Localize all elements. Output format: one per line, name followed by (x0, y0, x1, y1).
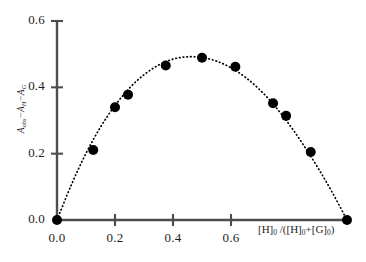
xlabel-p2: /([H] (277, 223, 302, 235)
ylabel-sub2: H (20, 102, 27, 107)
ylabel-sub1: obs (20, 119, 27, 128)
data-point (281, 111, 291, 121)
data-point (342, 215, 352, 225)
y-tick-label: 0.2 (5, 145, 45, 161)
data-point (110, 102, 120, 112)
y-tick-label: 0.0 (5, 211, 45, 227)
job-plot-figure: Aobs−AH−AG [H]0 /([H]0+[G]0) 0.00.20.40.… (0, 0, 366, 262)
xlabel-p1: [H] (258, 223, 273, 235)
data-point (197, 53, 207, 63)
xlabel-p3: +[G] (306, 223, 327, 235)
ylabel-a2: A (16, 106, 26, 112)
x-axis-label: [H]0 /([H]0+[G]0) (258, 223, 334, 235)
ylabel-dash2: − (16, 95, 26, 101)
x-tick-label: 0.6 (211, 230, 251, 246)
x-tick-label: 0.4 (153, 230, 193, 246)
data-point (123, 90, 133, 100)
data-point (230, 62, 240, 72)
data-point (88, 145, 98, 155)
y-tick-label: 0.6 (5, 12, 45, 28)
fitted-curve (57, 57, 347, 220)
ylabel-a1: A (16, 128, 26, 134)
xlabel-p4: ) (331, 223, 335, 235)
fit-curve-path (57, 57, 347, 220)
xlabel-sub2: 0 (302, 228, 306, 237)
data-point (161, 60, 171, 70)
x-tick-label: 0.2 (95, 230, 135, 246)
ylabel-dash1: − (16, 112, 26, 118)
xlabel-sub3: 0 (327, 228, 331, 237)
axes (57, 21, 346, 220)
data-point (306, 147, 316, 157)
y-tick-label: 0.4 (5, 78, 45, 94)
data-point (268, 98, 278, 108)
data-point (52, 215, 62, 225)
data-points (52, 53, 352, 225)
x-tick-label: 0.0 (37, 230, 77, 246)
xlabel-sub1: 0 (273, 228, 277, 237)
